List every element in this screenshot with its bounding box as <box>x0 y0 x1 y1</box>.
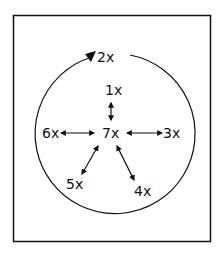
arc-arrowhead-icon <box>85 51 96 62</box>
label-4x: 4x <box>134 183 151 199</box>
label-6x: 6x <box>42 125 59 141</box>
label-1x: 1x <box>105 82 122 98</box>
label-2x: 2x <box>97 49 114 65</box>
label-5x: 5x <box>66 176 83 192</box>
label-3x: 3x <box>163 125 180 141</box>
diagram-canvas: 2x 7x 1x 6x 3x 5x 4x <box>0 0 222 253</box>
arrow-bottom-left <box>82 146 98 174</box>
label-7x-center: 7x <box>102 125 119 141</box>
arrow-bottom-right <box>117 146 134 180</box>
